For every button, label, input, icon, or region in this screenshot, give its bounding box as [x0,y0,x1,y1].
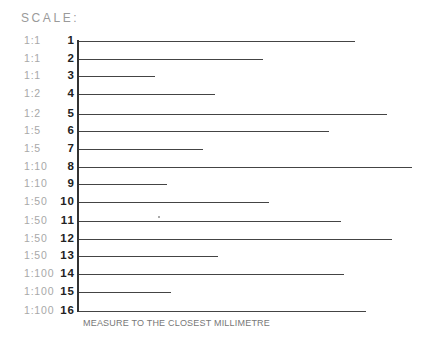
measurement-line [78,167,412,168]
measurement-line [78,311,366,312]
measurement-line [78,274,344,275]
line-number: 14 [49,267,75,279]
measurement-line [78,59,263,60]
scale-heading: SCALE: [21,11,79,25]
measurement-line [78,184,167,185]
measurement-line [78,149,203,150]
print-speck [158,216,160,218]
line-number: 1 [49,34,75,46]
line-number: 7 [49,142,75,154]
line-number: 9 [49,177,75,189]
measurement-line [78,41,355,42]
measurement-line [78,221,341,222]
measurement-line [78,114,387,115]
line-number: 4 [49,87,75,99]
vertical-axis-line [77,40,79,312]
measurement-line [78,76,155,77]
measurement-line [78,256,218,257]
line-number: 13 [49,249,75,261]
measurement-line [78,292,171,293]
line-number: 6 [49,124,75,136]
line-number: 16 [49,304,75,316]
measurement-line [78,202,269,203]
line-number: 15 [49,285,75,297]
line-number: 10 [49,195,75,207]
line-number: 11 [49,214,75,226]
line-number: 2 [49,52,75,64]
line-number: 5 [49,107,75,119]
measurement-line [78,239,392,240]
instruction-text: MEASURE TO THE CLOSEST MILLIMETRE [83,318,270,328]
line-number: 3 [49,69,75,81]
measurement-line [78,94,215,95]
line-number: 12 [49,232,75,244]
measurement-line [78,131,329,132]
line-number: 8 [49,160,75,172]
